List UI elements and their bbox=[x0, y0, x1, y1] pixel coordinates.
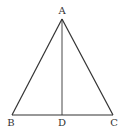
segment-ac bbox=[62, 19, 113, 115]
label-d: D bbox=[58, 117, 66, 128]
label-a: A bbox=[57, 5, 66, 16]
segment-ab bbox=[12, 19, 62, 115]
triangle-diagram: A B D C bbox=[0, 0, 127, 129]
label-c: C bbox=[110, 117, 118, 128]
label-b: B bbox=[7, 117, 14, 128]
